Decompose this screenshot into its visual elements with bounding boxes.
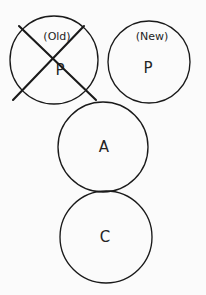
- diagram-canvas: (Old) P (New) P A C: [0, 0, 206, 295]
- p-new-letter: P: [143, 59, 152, 77]
- node-a[interactable]: A: [58, 102, 148, 192]
- c-letter: C: [100, 228, 110, 246]
- node-p-new[interactable]: (New) P: [108, 21, 190, 103]
- node-c[interactable]: C: [60, 191, 152, 283]
- p-old-tag-label: (Old): [43, 30, 70, 43]
- p-new-tag-label: (New): [136, 30, 169, 43]
- circle-diagram: (Old) P (New) P A C: [0, 0, 206, 295]
- a-letter: A: [99, 138, 110, 156]
